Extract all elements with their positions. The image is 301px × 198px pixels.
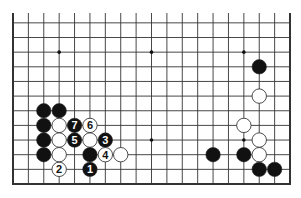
black-stone-3: 3 xyxy=(98,133,112,147)
black-stone xyxy=(37,104,51,118)
star-point-icon xyxy=(150,138,154,142)
black-stone xyxy=(252,60,266,74)
black-stone-icon xyxy=(37,118,51,132)
black-stone-icon xyxy=(237,148,251,162)
white-stone-icon xyxy=(252,133,266,147)
move-number: 5 xyxy=(71,134,77,146)
black-stone xyxy=(83,148,97,162)
white-stone-icon xyxy=(52,148,66,162)
white-stone xyxy=(52,118,66,132)
white-stone xyxy=(237,118,251,132)
white-stone-4: 4 xyxy=(98,148,112,162)
white-stone xyxy=(252,89,266,103)
black-stone-icon xyxy=(37,148,51,162)
star-point-icon xyxy=(242,138,246,142)
black-stone-icon xyxy=(37,104,51,118)
black-stone xyxy=(237,148,251,162)
stones-layer: 1234567 xyxy=(37,60,282,177)
white-stone xyxy=(114,148,128,162)
white-stone xyxy=(83,133,97,147)
black-stone xyxy=(37,148,51,162)
star-point-icon xyxy=(150,50,154,54)
white-stone xyxy=(252,148,266,162)
move-number: 7 xyxy=(71,119,77,131)
white-stone-icon xyxy=(83,133,97,147)
white-stone-icon xyxy=(52,118,66,132)
white-stone-icon xyxy=(237,118,251,132)
black-stone xyxy=(267,162,281,176)
go-board-diagram: 1234567 xyxy=(0,0,301,198)
black-stone xyxy=(252,162,266,176)
black-stone xyxy=(52,104,66,118)
white-stone-icon xyxy=(252,148,266,162)
black-stone xyxy=(37,133,51,147)
move-number: 4 xyxy=(102,149,109,161)
black-stone-icon xyxy=(206,148,220,162)
star-point-icon xyxy=(57,50,61,54)
white-stone xyxy=(52,148,66,162)
move-number: 3 xyxy=(102,134,108,146)
black-stone-icon xyxy=(252,162,266,176)
white-stone-icon xyxy=(252,89,266,103)
move-number: 6 xyxy=(87,119,93,131)
black-stone xyxy=(206,148,220,162)
black-stone-7: 7 xyxy=(67,118,81,132)
white-stone xyxy=(52,133,66,147)
black-stone xyxy=(37,118,51,132)
black-stone-icon xyxy=(83,148,97,162)
black-stone-icon xyxy=(252,60,266,74)
white-stone-6: 6 xyxy=(83,118,97,132)
white-stone-2: 2 xyxy=(52,162,66,176)
white-stone-icon xyxy=(52,133,66,147)
black-stone-5: 5 xyxy=(67,133,81,147)
black-stone-1: 1 xyxy=(83,162,97,176)
black-stone-icon xyxy=(267,162,281,176)
white-stone-icon xyxy=(114,148,128,162)
black-stone-icon xyxy=(52,104,66,118)
move-number: 2 xyxy=(56,163,62,175)
move-number: 1 xyxy=(87,163,93,175)
black-stone-icon xyxy=(37,133,51,147)
star-point-icon xyxy=(242,50,246,54)
white-stone xyxy=(252,133,266,147)
